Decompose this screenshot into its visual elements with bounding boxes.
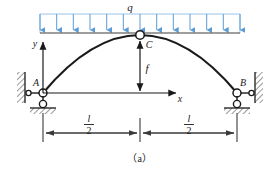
span-dimension-group xyxy=(43,113,237,142)
hinge-A-label: A xyxy=(32,77,40,88)
span-right-numerator: l xyxy=(188,113,191,124)
span-left-numerator: l xyxy=(88,113,91,124)
span-right-denominator: 2 xyxy=(187,125,192,136)
left-wall-hatch xyxy=(17,72,25,103)
left-wall-pin xyxy=(26,90,31,95)
right-roller xyxy=(233,100,240,107)
hinge-B-label: B xyxy=(240,77,246,88)
right-wall-hatch xyxy=(255,72,263,103)
rise-label: f xyxy=(145,62,150,74)
hinge-C xyxy=(136,31,145,40)
load-arrows xyxy=(40,14,240,30)
arch-figure: q A xyxy=(0,0,280,176)
right-wall-pin xyxy=(249,90,254,95)
axis-y-label: y xyxy=(32,38,38,49)
figure-caption: （a） xyxy=(0,150,280,165)
axis-x-label: x xyxy=(177,93,183,104)
hinge-B xyxy=(233,89,241,97)
span-left-denominator: 2 xyxy=(87,125,92,136)
left-roller xyxy=(39,100,46,107)
hinge-C-label: C xyxy=(146,39,153,50)
load-label: q xyxy=(127,1,133,13)
